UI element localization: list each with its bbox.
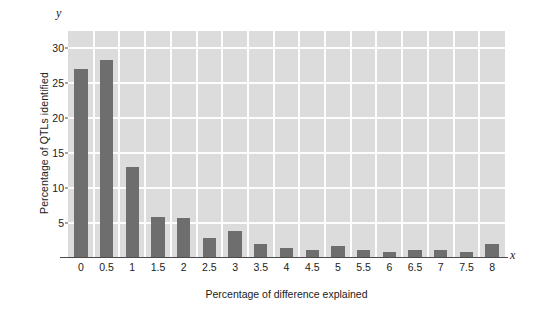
bar xyxy=(485,244,498,258)
bar xyxy=(177,218,190,259)
chart-figure: Percentage of QTLs identified y x 510152… xyxy=(0,0,533,313)
bar xyxy=(126,167,139,258)
y-tick-label: 30 xyxy=(24,42,64,54)
bar xyxy=(203,238,216,258)
bar-series xyxy=(68,31,505,258)
x-axis-title: Percentage of difference explained xyxy=(68,288,505,300)
x-axis-line xyxy=(60,257,508,258)
y-tick-label: 5 xyxy=(24,217,64,229)
y-tick-label: 20 xyxy=(24,112,64,124)
y-tick-label: 25 xyxy=(24,77,64,89)
bar xyxy=(100,60,113,258)
plot-area xyxy=(68,31,505,258)
bar xyxy=(74,69,87,258)
bar xyxy=(228,231,241,258)
x-axis-tick-labels: 00.511.522.533.544.555.566.577.58 xyxy=(68,261,505,279)
y-tick-label: 10 xyxy=(24,182,64,194)
y-tick-label: 15 xyxy=(24,147,64,159)
x-tick-label: 8 xyxy=(472,261,512,273)
bar xyxy=(151,217,164,258)
bar xyxy=(254,244,267,258)
y-axis-tick-labels: 51015202530 xyxy=(24,0,64,313)
